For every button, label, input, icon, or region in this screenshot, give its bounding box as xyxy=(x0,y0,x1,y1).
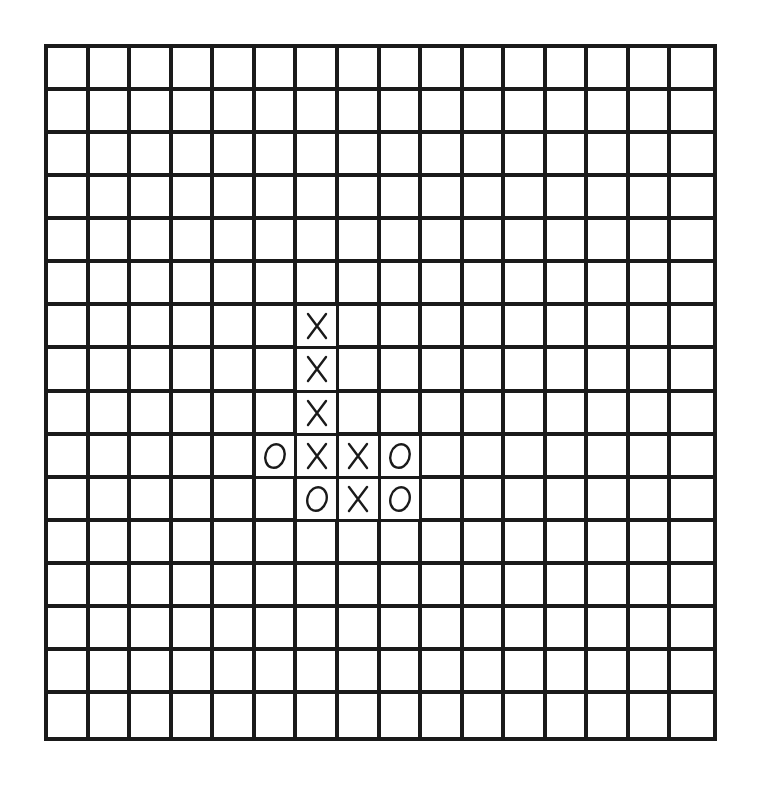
board-cell-r10-c13[interactable] xyxy=(588,479,630,522)
board-cell-r3-c10[interactable] xyxy=(464,177,506,220)
board-cell-r4-c1[interactable] xyxy=(90,220,132,263)
board-cell-r14-c11[interactable] xyxy=(505,651,547,694)
board-cell-r14-c8[interactable] xyxy=(381,651,423,694)
board-cell-r1-c6[interactable] xyxy=(297,91,339,134)
board-cell-r14-c14[interactable] xyxy=(630,651,672,694)
board-cell-r14-c15[interactable] xyxy=(671,651,713,694)
board-cell-r3-c4[interactable] xyxy=(214,177,256,220)
board-cell-r10-c4[interactable] xyxy=(214,479,256,522)
board-cell-r12-c9[interactable] xyxy=(422,565,464,608)
board-cell-r1-c7[interactable] xyxy=(339,91,381,134)
board-cell-r13-c9[interactable] xyxy=(422,608,464,651)
board-cell-r12-c6[interactable] xyxy=(297,565,339,608)
board-cell-r13-c15[interactable] xyxy=(671,608,713,651)
board-cell-r6-c10[interactable] xyxy=(464,306,506,349)
board-cell-r2-c2[interactable] xyxy=(131,134,173,177)
board-cell-r5-c1[interactable] xyxy=(90,263,132,306)
board-cell-r3-c2[interactable] xyxy=(131,177,173,220)
board-cell-r6-c11[interactable] xyxy=(505,306,547,349)
board-cell-r14-c2[interactable] xyxy=(131,651,173,694)
board-cell-r10-c15[interactable] xyxy=(671,479,713,522)
board-cell-r6-c12[interactable] xyxy=(547,306,589,349)
board-cell-r13-c7[interactable] xyxy=(339,608,381,651)
board-cell-r0-c12[interactable] xyxy=(547,48,589,91)
board-cell-r3-c1[interactable] xyxy=(90,177,132,220)
board-cell-r12-c13[interactable] xyxy=(588,565,630,608)
board-cell-r2-c4[interactable] xyxy=(214,134,256,177)
board-cell-r11-c14[interactable] xyxy=(630,522,672,565)
board-cell-r8-c0[interactable] xyxy=(48,393,90,436)
board-cell-r8-c15[interactable] xyxy=(671,393,713,436)
board-cell-r9-c15[interactable] xyxy=(671,436,713,479)
board-cell-r3-c6[interactable] xyxy=(297,177,339,220)
board-cell-r10-c6[interactable] xyxy=(297,479,339,522)
board-cell-r10-c11[interactable] xyxy=(505,479,547,522)
board-cell-r7-c6[interactable] xyxy=(297,349,339,392)
board-cell-r4-c11[interactable] xyxy=(505,220,547,263)
board-cell-r6-c6[interactable] xyxy=(297,306,339,349)
board-cell-r8-c1[interactable] xyxy=(90,393,132,436)
board-cell-r11-c9[interactable] xyxy=(422,522,464,565)
board-cell-r0-c5[interactable] xyxy=(256,48,298,91)
board-cell-r8-c10[interactable] xyxy=(464,393,506,436)
board-cell-r10-c2[interactable] xyxy=(131,479,173,522)
board-cell-r12-c3[interactable] xyxy=(173,565,215,608)
board-cell-r9-c3[interactable] xyxy=(173,436,215,479)
board-cell-r3-c5[interactable] xyxy=(256,177,298,220)
board-cell-r6-c1[interactable] xyxy=(90,306,132,349)
board-cell-r13-c3[interactable] xyxy=(173,608,215,651)
board-cell-r15-c7[interactable] xyxy=(339,694,381,737)
board-cell-r8-c5[interactable] xyxy=(256,393,298,436)
board-cell-r0-c10[interactable] xyxy=(464,48,506,91)
board-cell-r5-c14[interactable] xyxy=(630,263,672,306)
board-cell-r1-c15[interactable] xyxy=(671,91,713,134)
board-cell-r9-c4[interactable] xyxy=(214,436,256,479)
board-cell-r10-c12[interactable] xyxy=(547,479,589,522)
board-cell-r4-c15[interactable] xyxy=(671,220,713,263)
board-cell-r12-c4[interactable] xyxy=(214,565,256,608)
board-cell-r0-c3[interactable] xyxy=(173,48,215,91)
board-cell-r15-c14[interactable] xyxy=(630,694,672,737)
board-cell-r7-c14[interactable] xyxy=(630,349,672,392)
board-cell-r15-c3[interactable] xyxy=(173,694,215,737)
board-cell-r7-c13[interactable] xyxy=(588,349,630,392)
board-cell-r7-c4[interactable] xyxy=(214,349,256,392)
board-cell-r7-c2[interactable] xyxy=(131,349,173,392)
board-cell-r10-c7[interactable] xyxy=(339,479,381,522)
board-cell-r6-c9[interactable] xyxy=(422,306,464,349)
board-cell-r2-c6[interactable] xyxy=(297,134,339,177)
board-cell-r9-c1[interactable] xyxy=(90,436,132,479)
board-cell-r12-c12[interactable] xyxy=(547,565,589,608)
board-cell-r5-c15[interactable] xyxy=(671,263,713,306)
board-cell-r4-c0[interactable] xyxy=(48,220,90,263)
board-cell-r14-c3[interactable] xyxy=(173,651,215,694)
board-cell-r15-c6[interactable] xyxy=(297,694,339,737)
board-cell-r10-c9[interactable] xyxy=(422,479,464,522)
board-cell-r4-c7[interactable] xyxy=(339,220,381,263)
board-cell-r9-c10[interactable] xyxy=(464,436,506,479)
board-cell-r6-c13[interactable] xyxy=(588,306,630,349)
board-cell-r12-c11[interactable] xyxy=(505,565,547,608)
board-cell-r0-c2[interactable] xyxy=(131,48,173,91)
board-cell-r0-c4[interactable] xyxy=(214,48,256,91)
board-cell-r7-c15[interactable] xyxy=(671,349,713,392)
board-cell-r9-c0[interactable] xyxy=(48,436,90,479)
board-cell-r10-c5[interactable] xyxy=(256,479,298,522)
board-cell-r4-c14[interactable] xyxy=(630,220,672,263)
board-cell-r12-c8[interactable] xyxy=(381,565,423,608)
board-cell-r6-c14[interactable] xyxy=(630,306,672,349)
board-cell-r5-c4[interactable] xyxy=(214,263,256,306)
board-cell-r2-c15[interactable] xyxy=(671,134,713,177)
board-cell-r6-c0[interactable] xyxy=(48,306,90,349)
board-cell-r1-c11[interactable] xyxy=(505,91,547,134)
board-cell-r3-c8[interactable] xyxy=(381,177,423,220)
board-cell-r5-c10[interactable] xyxy=(464,263,506,306)
board-cell-r4-c3[interactable] xyxy=(173,220,215,263)
board-cell-r13-c11[interactable] xyxy=(505,608,547,651)
board-cell-r6-c2[interactable] xyxy=(131,306,173,349)
board-cell-r8-c7[interactable] xyxy=(339,393,381,436)
board-cell-r14-c6[interactable] xyxy=(297,651,339,694)
board-cell-r7-c10[interactable] xyxy=(464,349,506,392)
board-cell-r5-c0[interactable] xyxy=(48,263,90,306)
board-cell-r14-c7[interactable] xyxy=(339,651,381,694)
